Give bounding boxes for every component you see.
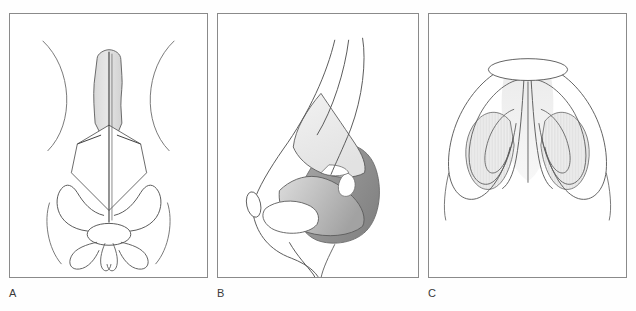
nostril-loop-right bbox=[119, 242, 148, 269]
nasal-bone-shaded-dorsum bbox=[94, 50, 122, 135]
cheek-contour-left bbox=[444, 173, 448, 221]
columella-loop-right bbox=[107, 243, 117, 271]
tip-dome-ellipse bbox=[87, 223, 131, 245]
cheek-contour-right bbox=[606, 173, 610, 221]
panel-label-a: A bbox=[9, 288, 17, 299]
basal-view-illustration bbox=[429, 14, 626, 277]
panel-a-frontal-view bbox=[9, 13, 208, 278]
figure-board: A B C bbox=[0, 0, 636, 311]
lateral-crus-hatched-left bbox=[466, 112, 514, 189]
panel-label-c: C bbox=[428, 288, 436, 299]
columella-loop-left bbox=[101, 243, 111, 271]
columella-ellipse bbox=[488, 59, 567, 81]
alar-base-arc-right bbox=[156, 203, 171, 265]
orbital-arc-left bbox=[43, 41, 67, 151]
frontal-view-illustration bbox=[10, 14, 207, 277]
panel-label-b: B bbox=[217, 288, 225, 299]
panel-c-basal-view bbox=[428, 13, 627, 278]
lateral-crus-hatched-right bbox=[541, 112, 589, 189]
alar-crease-line bbox=[321, 244, 335, 277]
lateral-view-illustration bbox=[218, 14, 418, 277]
panel-b-lateral-view bbox=[217, 13, 419, 278]
nostril-loop-left bbox=[70, 242, 99, 269]
orbital-arc-right bbox=[150, 41, 174, 151]
nostril-vestibule-white bbox=[263, 201, 319, 233]
nasion-ellipse bbox=[244, 190, 263, 218]
